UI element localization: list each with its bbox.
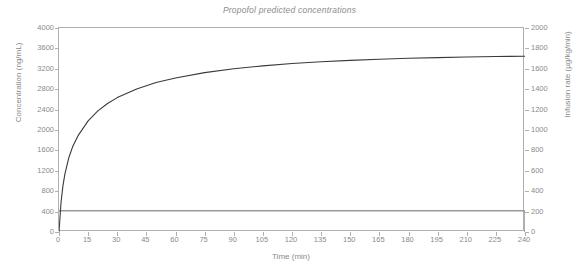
left-axis-tick — [55, 212, 59, 213]
left-axis-tick — [55, 171, 59, 172]
left-axis-tick — [55, 130, 59, 131]
bottom-axis-tick-label: 135 — [314, 235, 327, 244]
infusion-rate-line — [59, 211, 525, 232]
right-axis-tick-label: 2000 — [531, 23, 548, 32]
left-axis-tick-label: 800 — [14, 186, 54, 195]
bottom-axis-tick-label: 60 — [170, 235, 178, 244]
bottom-axis-tick-label: 225 — [489, 235, 502, 244]
bottom-axis-tick-label: 90 — [229, 235, 237, 244]
left-axis-tick — [55, 48, 59, 49]
left-axis-tick-label: 400 — [14, 206, 54, 215]
right-axis-tick-label: 1200 — [531, 104, 548, 113]
right-axis-title: Infusion rate (µg/kg/min) — [563, 0, 572, 155]
right-axis-tick-label: 400 — [531, 186, 544, 195]
bottom-axis-tick-label: 0 — [56, 235, 60, 244]
left-axis-tick-label: 1200 — [14, 165, 54, 174]
right-axis-tick-label: 200 — [531, 206, 544, 215]
left-axis-tick — [55, 110, 59, 111]
bottom-axis-tick-label: 45 — [141, 235, 149, 244]
left-axis-tick — [55, 69, 59, 70]
left-axis-tick-label: 0 — [14, 227, 54, 236]
chart-title: Propofol predicted concentrations — [0, 5, 579, 15]
right-axis-tick-label: 600 — [531, 165, 544, 174]
right-axis-tick-label: 1000 — [531, 125, 548, 134]
bottom-axis-tick-label: 195 — [430, 235, 443, 244]
bottom-axis-tick-label: 210 — [459, 235, 472, 244]
bottom-axis-tick-label: 15 — [83, 235, 91, 244]
left-axis-title: Concentration (ng/mL) — [14, 13, 23, 153]
right-axis-tick — [525, 89, 529, 90]
plot-svg — [59, 28, 525, 232]
bottom-axis-labels: 0153045607590105120135150165180195210225… — [58, 235, 524, 247]
bottom-axis-tick-label: 180 — [401, 235, 414, 244]
right-axis-tick-label: 800 — [531, 145, 544, 154]
right-axis-tick-label: 1400 — [531, 84, 548, 93]
right-axis-tick-label: 0 — [531, 227, 535, 236]
right-axis-tick — [525, 130, 529, 131]
bottom-axis-tick-label: 75 — [199, 235, 207, 244]
concentration-curve — [59, 56, 525, 232]
right-axis-tick — [525, 191, 529, 192]
bottom-axis-tick-label: 30 — [112, 235, 120, 244]
bottom-axis-title: Time (min) — [58, 252, 524, 261]
right-axis-tick — [525, 171, 529, 172]
left-axis-tick — [55, 28, 59, 29]
right-axis-tick — [525, 28, 529, 29]
bottom-axis-tick-label: 150 — [343, 235, 356, 244]
right-axis-tick — [525, 110, 529, 111]
right-axis-tick-label: 1800 — [531, 43, 548, 52]
bottom-axis-tick-label: 240 — [518, 235, 531, 244]
right-axis-labels: 0200400600800100012001400160018002000 — [531, 27, 565, 231]
left-axis-tick — [55, 150, 59, 151]
bottom-axis-tick-label: 105 — [256, 235, 269, 244]
left-axis-tick — [55, 191, 59, 192]
right-axis-tick-label: 1600 — [531, 63, 548, 72]
plot-area — [58, 27, 524, 231]
right-axis-tick — [525, 69, 529, 70]
bottom-axis-tick-label: 165 — [372, 235, 385, 244]
bottom-axis-tick-label: 120 — [285, 235, 298, 244]
right-axis-tick — [525, 48, 529, 49]
left-axis-tick — [55, 89, 59, 90]
right-axis-tick — [525, 212, 529, 213]
propofol-concentration-chart: Propofol predicted concentrations 040080… — [0, 0, 579, 277]
right-axis-tick — [525, 150, 529, 151]
